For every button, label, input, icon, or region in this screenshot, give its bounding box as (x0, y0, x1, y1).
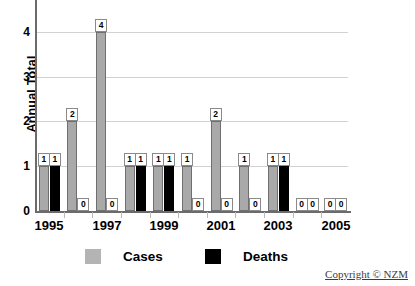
bar-value-label: 1 (278, 153, 290, 166)
bar-value-label: 0 (106, 198, 118, 211)
bar-value-label: 0 (192, 198, 204, 211)
bar-1998-deaths (136, 166, 146, 211)
bar-value-label: 2 (210, 108, 222, 121)
bar-value-label: 1 (181, 153, 193, 166)
bar-1997-cases (96, 32, 106, 211)
bar-value-label: 0 (307, 198, 319, 211)
y-tick-label: 3 (8, 71, 30, 83)
x-tick-label: 1999 (134, 218, 194, 234)
bar-value-label: 0 (221, 198, 233, 211)
x-tick-label: 1995 (19, 218, 79, 234)
bar-1999-deaths (164, 166, 174, 211)
bar-2001-cases (211, 121, 221, 211)
bar-2000-cases (182, 166, 192, 211)
bar-value-label: 1 (135, 153, 147, 166)
x-axis-line (35, 211, 351, 213)
bar-chart: Annual Total 01234 199519971999200120032… (0, 0, 415, 286)
legend-label-cases: Cases (123, 248, 163, 265)
bar-value-label: 2 (66, 108, 78, 121)
bar-1998-cases (125, 166, 135, 211)
bar-value-label: 4 (95, 19, 107, 32)
bar-2003-deaths (279, 166, 289, 211)
bar-1996-cases (67, 121, 77, 211)
cases-swatch-icon (85, 249, 101, 264)
bar-1995-deaths (50, 166, 60, 211)
bar-value-label: 0 (77, 198, 89, 211)
bar-2002-cases (239, 166, 249, 211)
y-tick-label: 4 (8, 26, 30, 38)
x-tick-label: 2001 (191, 218, 251, 234)
bar-value-label: 1 (49, 153, 61, 166)
bar-value-label: 0 (335, 198, 347, 211)
bar-value-label: 1 (163, 153, 175, 166)
y-tick-label: 0 (8, 205, 30, 217)
x-tick-label: 2003 (248, 218, 308, 234)
deaths-swatch-icon (205, 249, 221, 264)
x-tick-label: 1997 (77, 218, 137, 234)
x-tick-label: 2005 (306, 218, 366, 234)
y-tick-label: 2 (8, 115, 30, 127)
bar-1999-cases (153, 166, 163, 211)
y-tick-label: 1 (8, 160, 30, 172)
bar-2003-cases (268, 166, 278, 211)
chart-legend: Cases Deaths (0, 246, 340, 270)
bar-value-label: 0 (249, 198, 261, 211)
bar-1995-cases (39, 166, 49, 211)
copyright-notice: Copyright © NZM (325, 268, 408, 280)
plot-area: 1241112110010011000100 (35, 5, 350, 211)
legend-label-deaths: Deaths (243, 248, 288, 265)
bar-value-label: 1 (238, 153, 250, 166)
